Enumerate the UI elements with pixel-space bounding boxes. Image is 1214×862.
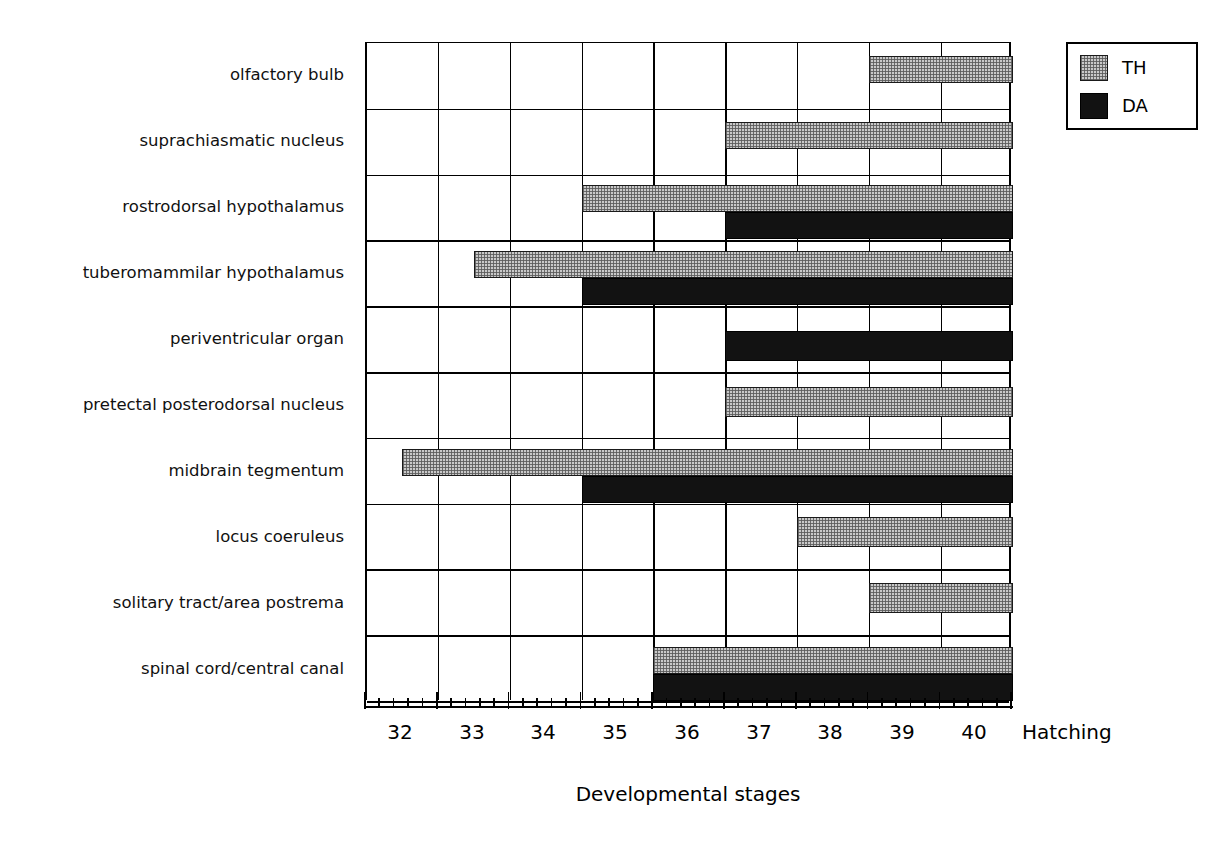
gridline-horizontal-8 (367, 569, 1009, 571)
x-tick-label-hatching: Hatching (1014, 722, 1132, 742)
x-tick-minor-17 (666, 698, 668, 707)
x-tick-minor-11 (551, 698, 553, 707)
bar-da-periventricular-organ (725, 331, 1013, 361)
x-tick-minor-36 (996, 698, 998, 707)
x-tick-minor-34 (967, 698, 969, 707)
legend-item-th: TH (1080, 55, 1147, 81)
category-label-tuberomammilar-hypothalamus: tuberomammilar hypothalamus (83, 265, 344, 282)
bar-th-rostrodorsal-hypothalamus (582, 185, 1014, 212)
x-tick-minor-28 (852, 698, 854, 707)
x-tick-minor-16 (637, 698, 639, 707)
bar-da-midbrain-tegmentum (582, 476, 1014, 503)
bar-th-pretectal-posterodorsal-nucleus (725, 387, 1013, 417)
x-tick-minor-3 (407, 698, 409, 707)
x-tick-minor-2 (393, 698, 395, 707)
x-tick-label-36: 36 (657, 722, 717, 742)
x-tick-minor-30 (895, 698, 897, 707)
bar-th-spinal-cord-central-canal (653, 647, 1013, 674)
x-tick-minor-20 (709, 698, 711, 707)
x-tick-label-32: 32 (370, 722, 430, 742)
x-tick-minor-24 (781, 698, 783, 707)
x-tick-minor-6 (465, 698, 467, 707)
x-tick-minor-31 (910, 698, 912, 707)
x-tick-minor-5 (450, 698, 452, 707)
x-tick-minor-35 (982, 698, 984, 707)
x-tick-major-32-5 (436, 692, 438, 709)
x-axis-line (365, 706, 1013, 708)
legend-swatch-th-icon (1080, 55, 1108, 81)
bar-th-olfactory-bulb (869, 56, 1013, 83)
bar-th-suprachiasmatic-nucleus (725, 122, 1013, 149)
x-tick-major-36-5 (723, 692, 725, 709)
gridline-horizontal-7 (367, 504, 1009, 506)
category-label-spinal-cord-central-canal: spinal cord/central canal (141, 661, 344, 678)
gridline-horizontal-9 (367, 635, 1009, 637)
gridline-horizontal-4 (367, 306, 1009, 308)
x-tick-minor-14 (608, 698, 610, 707)
x-axis-title: Developmental stages (365, 782, 1011, 806)
x-tick-major-39-5 (939, 692, 941, 709)
gridline-horizontal-6 (367, 438, 1009, 440)
x-tick-minor-26 (824, 698, 826, 707)
gridline-horizontal-2 (367, 175, 1009, 177)
legend-label-da: DA (1122, 97, 1148, 115)
x-tick-label-33: 33 (442, 722, 502, 742)
x-tick-major-31-5 (364, 692, 366, 709)
bar-th-locus-coeruleus (797, 517, 1013, 547)
x-tick-minor-12 (565, 698, 567, 707)
x-tick-major-37-5 (795, 692, 797, 709)
x-tick-minor-9 (522, 698, 524, 707)
bar-da-spinal-cord-central-canal (653, 674, 1013, 701)
x-tick-minor-21 (737, 698, 739, 707)
bar-th-midbrain-tegmentum (402, 449, 1013, 476)
category-label-suprachiasmatic-nucleus: suprachiasmatic nucleus (139, 133, 344, 150)
x-tick-major-33-5 (508, 692, 510, 709)
x-tick-minor-1 (378, 698, 380, 707)
category-label-solitary-tract-area-postrema: solitary tract/area postrema (113, 595, 344, 612)
x-tick-major-35-5 (651, 692, 653, 709)
bar-da-tuberomammilar-hypothalamus (582, 278, 1014, 305)
x-tick-label-34: 34 (513, 722, 573, 742)
legend-item-da: DA (1080, 93, 1148, 119)
x-tick-major-38-5 (867, 692, 869, 709)
category-label-olfactory-bulb: olfactory bulb (230, 67, 344, 84)
category-label-rostrodorsal-hypothalamus: rostrodorsal hypothalamus (122, 199, 344, 216)
chart-legend: TH DA (1066, 42, 1198, 130)
x-tick-label-37: 37 (729, 722, 789, 742)
legend-label-th: TH (1122, 59, 1147, 77)
plot-area (365, 42, 1011, 700)
x-tick-label-39: 39 (872, 722, 932, 742)
category-label-periventricular-organ: periventricular organ (170, 331, 344, 348)
category-axis-labels: olfactory bulb suprachiasmatic nucleus r… (0, 42, 352, 700)
x-tick-minor-27 (838, 698, 840, 707)
x-tick-minor-32 (924, 698, 926, 707)
x-tick-minor-25 (809, 698, 811, 707)
x-tick-minor-33 (953, 698, 955, 707)
x-tick-minor-29 (881, 698, 883, 707)
category-label-locus-coeruleus: locus coeruleus (216, 529, 344, 546)
gridline-horizontal-5 (367, 372, 1009, 374)
x-tick-minor-13 (594, 698, 596, 707)
bar-th-tuberomammilar-hypothalamus (474, 251, 1013, 278)
chart-figure: olfactory bulb suprachiasmatic nucleus r… (0, 0, 1214, 862)
x-tick-major-34-5 (580, 692, 582, 709)
gridline-horizontal-1 (367, 109, 1009, 111)
x-tick-label-40: 40 (944, 722, 1004, 742)
bar-th-solitary-tract-area-postrema (869, 583, 1013, 613)
x-tick-minor-23 (766, 698, 768, 707)
x-tick-label-35: 35 (585, 722, 645, 742)
gridline-horizontal-3 (367, 240, 1009, 242)
category-label-pretectal-posterodorsal-nucleus: pretectal posterodorsal nucleus (83, 397, 344, 414)
x-tick-label-38: 38 (800, 722, 860, 742)
x-tick-minor-22 (752, 698, 754, 707)
x-tick-major-40-5 (1010, 692, 1012, 709)
gridline-horizontal-10 (367, 701, 1009, 703)
category-label-midbrain-tegmentum: midbrain tegmentum (168, 463, 344, 480)
x-tick-minor-8 (493, 698, 495, 707)
legend-swatch-da-icon (1080, 93, 1108, 119)
x-tick-minor-4 (422, 698, 424, 707)
x-tick-minor-10 (536, 698, 538, 707)
x-tick-minor-15 (623, 698, 625, 707)
x-tick-minor-18 (680, 698, 682, 707)
x-tick-minor-7 (479, 698, 481, 707)
